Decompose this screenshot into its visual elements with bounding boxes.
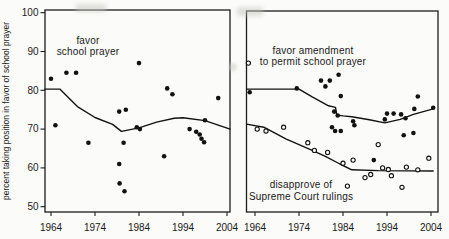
x-tick-label: 1964 [244,222,267,233]
data-point [255,127,259,131]
x-tick-label: 1964 [40,222,63,233]
data-point [202,140,207,145]
series-label: to permit school prayer [260,56,367,67]
data-point [427,156,431,160]
data-point [333,129,338,134]
data-point [400,185,404,189]
data-point [49,76,54,81]
data-point [399,112,404,117]
x-tick-label: 1984 [332,222,355,233]
data-point [332,109,337,114]
data-point [53,123,58,128]
data-point [335,113,340,118]
data-point [351,158,355,162]
data-point [295,86,300,91]
x-tick-label: 1974 [288,222,311,233]
data-point [381,166,385,170]
data-point [391,111,396,116]
data-point [117,162,122,167]
panel-right: 19641974198419942004favor amendmentto pe… [244,11,443,233]
data-point [386,167,390,171]
data-point [416,168,420,172]
data-point [341,161,345,165]
y-tick-label: 90 [27,46,39,57]
series-points [49,61,221,194]
data-point [412,107,417,112]
x-tick-label: 1994 [172,222,195,233]
data-point [312,148,316,152]
data-point [187,127,192,132]
data-point [137,61,142,66]
y-tick-label: 100 [22,7,39,18]
data-point [197,132,202,137]
y-tick-label: 50 [27,201,39,212]
y-tick-label: 80 [27,85,39,96]
data-point [264,129,268,133]
data-point [336,73,341,78]
data-point [117,181,122,186]
x-tick-label: 1974 [84,222,107,233]
series-label: Supreme Court rulings [249,191,353,202]
x-tick-label: 1994 [376,222,399,233]
data-point [431,106,436,111]
data-point [372,158,377,163]
school-prayer-trends-chart: 196419741984199420045060708090100favorsc… [0,0,449,239]
data-point [203,118,208,123]
data-point [389,174,393,178]
data-point [339,94,344,99]
data-point [170,92,175,97]
data-point [345,184,349,188]
data-point [351,119,356,124]
data-point [306,141,310,145]
data-point [124,107,129,112]
data-point [121,140,126,145]
data-point [352,123,357,128]
data-point [216,96,221,101]
data-point [162,154,167,159]
x-tick-label: 2004 [216,222,239,233]
series-label: favor amendment [273,45,354,56]
y-tick-label: 60 [27,162,39,173]
data-point [138,127,143,132]
data-point [319,78,324,83]
data-point [330,125,335,130]
data-point [403,116,408,121]
data-point [416,94,421,99]
plot-box [45,10,230,212]
data-point [401,133,406,138]
y-axis-label: percent taking position in favor of scho… [1,22,11,200]
data-point [122,189,127,194]
data-point [376,143,380,147]
scanned-figure-page: 196419741984199420045060708090100favorsc… [0,0,449,239]
data-point [326,150,330,154]
data-point [323,84,328,89]
data-point [328,78,333,83]
data-point [64,71,69,76]
x-tick-label: 1984 [128,222,151,233]
x-tick-label: 2004 [420,222,443,233]
data-point [369,172,373,176]
data-point [165,86,170,91]
data-point [339,129,344,134]
data-point [74,71,79,76]
series-label: school prayer [57,46,120,57]
data-point [363,176,367,180]
data-point [385,111,390,116]
y-tick-label: 70 [27,123,39,134]
data-point [411,131,416,136]
data-point [86,140,91,145]
series-points [247,73,435,163]
series-label: favor [76,35,100,46]
panel-left: 196419741984199420045060708090100favorsc… [22,7,239,233]
data-point [404,165,408,169]
data-point [117,109,122,114]
data-point [247,90,252,95]
series-label: disapprove of [270,179,333,190]
data-point [383,117,388,122]
data-point [282,125,286,129]
data-point [246,61,250,65]
